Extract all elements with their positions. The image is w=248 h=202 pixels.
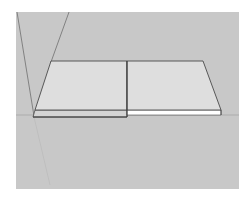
- scene-canvas[interactable]: [0, 0, 248, 202]
- left-slab-top-face[interactable]: [35, 61, 127, 110]
- right-slab-top-face[interactable]: [127, 61, 221, 110]
- guide-line-left: [17, 12, 34, 116]
- guide-line-lower: [34, 117, 50, 185]
- right-slab-side-face[interactable]: [127, 110, 221, 115]
- left-slab-side-face[interactable]: [33, 110, 127, 117]
- guide-line-right: [51, 12, 69, 62]
